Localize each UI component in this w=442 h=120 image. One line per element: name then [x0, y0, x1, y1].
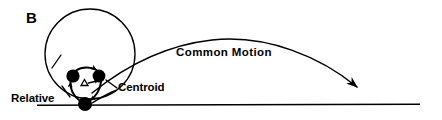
relative-motions-label-line1: Relative	[11, 93, 54, 105]
relative-arrow-top	[76, 67, 97, 70]
body-right-dot	[93, 70, 106, 83]
baseline	[37, 104, 420, 105]
centroid-leader-upper	[106, 80, 117, 88]
centroid-dot	[78, 97, 92, 111]
panel-letter-b: B	[26, 10, 37, 25]
relative-motions-label: Relative Motions	[11, 70, 54, 120]
figure-panel-b: B Relative Motions Centroid Common Motio…	[0, 0, 442, 120]
body-left-dot	[66, 69, 79, 82]
relative-motions-leader-lower	[62, 86, 70, 97]
common-motion-label: Common Motion	[176, 47, 272, 59]
centroid-delta-marker	[81, 80, 88, 86]
centroid-label: Centroid	[118, 82, 164, 94]
relative-motions-leader	[52, 55, 61, 68]
figure-drawing	[0, 0, 442, 120]
